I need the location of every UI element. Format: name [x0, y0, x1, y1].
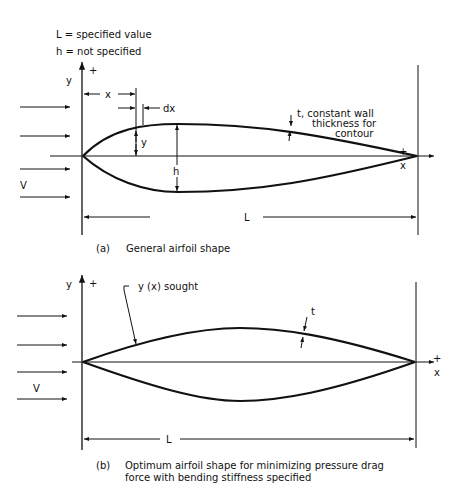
y-plus-b: +	[89, 278, 97, 289]
caption-b-line1: Optimum airfoil shape for minimizing pre…	[125, 460, 384, 471]
legend-L: L = specified value	[56, 29, 152, 40]
figure-b: y + + x V y (x) sought t L (b) Optimum a…	[17, 275, 441, 483]
length-label-a: L	[244, 212, 250, 223]
caption-tag-a: (a)	[96, 243, 110, 254]
y-dim-label: y	[141, 137, 147, 148]
airfoil-diagram: L = specified value h = not specified y …	[0, 0, 461, 490]
h-dim-label: h	[173, 166, 179, 177]
caption-a: General airfoil shape	[126, 243, 230, 254]
wall-note-3: contour	[335, 128, 374, 139]
x-axis-label-b: x	[434, 367, 440, 378]
figure-a: y + + x V x dx y h	[20, 62, 434, 254]
caption-tag-b: (b)	[96, 460, 110, 471]
y-plus-a: +	[89, 65, 97, 76]
x-dim-label: x	[105, 89, 111, 100]
t-arrow-down-b	[304, 317, 307, 331]
y-axis-label-b: y	[66, 279, 72, 290]
caption-b-line2: force with bending stiffness specified	[125, 472, 311, 483]
t-label-b: t	[311, 306, 315, 317]
airfoil-lower-b	[83, 362, 415, 401]
y-axis-label-a: y	[66, 75, 72, 86]
airfoil-lower-a	[83, 156, 417, 192]
sought-label: y (x) sought	[138, 281, 198, 292]
airfoil-upper-b	[83, 328, 415, 362]
legend-h: h = not specified	[56, 46, 141, 57]
dx-label: dx	[163, 103, 175, 114]
t-arrow-up-b	[301, 337, 303, 348]
length-label-b: L	[166, 434, 172, 445]
sought-leader	[124, 286, 136, 344]
x-plus-b: +	[433, 353, 441, 364]
velocity-label-a: V	[20, 180, 27, 191]
x-axis-label-a: x	[400, 160, 406, 171]
velocity-label-b: V	[33, 383, 40, 394]
